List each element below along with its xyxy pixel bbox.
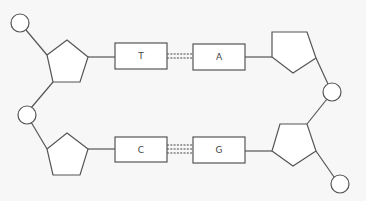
phosphate-circle-bottom-right <box>331 175 349 193</box>
phosphate-circle-left-middle <box>18 106 36 124</box>
base-label-c: C <box>138 145 144 155</box>
sugar-pentagon-top-right <box>272 32 316 73</box>
phosphate-circle-right-middle <box>323 83 341 101</box>
hydrogen-bonds-cg <box>167 145 193 153</box>
backbone-bond-right-mid-lower <box>307 99 327 124</box>
phosphate-circle-top-left <box>11 14 29 32</box>
backbone-bond-left-mid-lower <box>31 122 47 149</box>
base-label-a: A <box>216 52 223 62</box>
base-label-t: T <box>137 51 144 61</box>
base-t: T <box>115 43 167 69</box>
backbone-bond-left-mid-upper <box>31 82 53 108</box>
sugar-pentagon-bottom-right <box>272 124 316 166</box>
backbone-bond-top-left <box>26 30 47 55</box>
base-a: A <box>193 44 245 70</box>
hydrogen-bonds-ta <box>167 54 193 58</box>
base-g: G <box>193 137 245 163</box>
sugar-pentagon-bottom-left <box>47 133 88 175</box>
dna-diagram: T A C G <box>0 0 366 201</box>
backbone-bond-bottom-right <box>316 151 334 177</box>
backbone-bond-right-mid-upper <box>316 58 328 84</box>
sugar-pentagon-top-left <box>47 40 88 82</box>
base-c: C <box>115 137 167 162</box>
base-label-g: G <box>216 145 223 155</box>
